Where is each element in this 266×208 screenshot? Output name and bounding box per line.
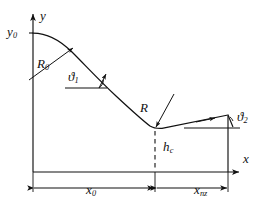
r0-leader-line	[29, 48, 73, 80]
hc-label: hc	[163, 140, 173, 153]
r-leader-line	[156, 94, 174, 127]
xnz-sub: nz	[200, 189, 207, 198]
theta1-base: ϑ	[68, 69, 74, 84]
x0-sub: 0	[92, 189, 96, 198]
diagram-canvas	[0, 0, 266, 208]
axis-group	[33, 14, 239, 172]
x0-base: x	[86, 182, 92, 197]
y-axis-label: y	[40, 9, 46, 22]
theta2-label: ϑ2	[237, 110, 248, 123]
R0-base: R	[37, 56, 45, 71]
xnz-base: x	[194, 182, 200, 197]
R-base: R	[140, 100, 148, 115]
theta1-label: ϑ1	[68, 70, 79, 83]
xnz-label: xnz	[194, 183, 207, 196]
R0-label: R0	[37, 57, 49, 70]
y0-sub: 0	[13, 31, 17, 40]
theta2-sub: 2	[244, 116, 248, 125]
theta1-sub: 1	[75, 76, 79, 85]
theta2-angle-group	[184, 115, 240, 128]
wall-contour-curve	[33, 33, 228, 128]
theta2-base: ϑ	[237, 109, 243, 124]
hc-sub: c	[170, 146, 174, 155]
hc-base: h	[163, 139, 170, 154]
y0-label: y0	[7, 25, 17, 38]
y0-base: y	[7, 24, 13, 39]
nozzle-contour-diagram: y x y0 R0 ϑ1 R ϑ2 hc x0 xnz	[0, 0, 266, 208]
R0-sub: 0	[45, 63, 49, 72]
R-label: R	[140, 101, 148, 114]
x-axis-label: x	[243, 152, 249, 165]
x0-label: x0	[86, 183, 96, 196]
theta2-chord-arrow	[196, 118, 215, 122]
